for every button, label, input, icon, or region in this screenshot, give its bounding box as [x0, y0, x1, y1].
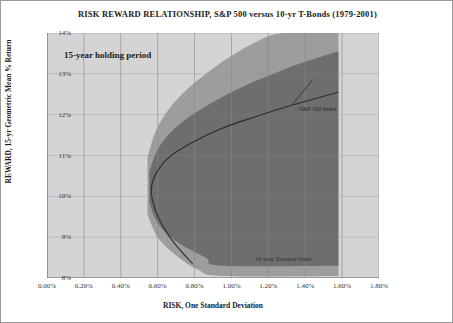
plot-area: 15-year holding period S&P 500 Index 10-…	[47, 33, 379, 278]
series-label-sp500: S&P 500 Index	[299, 105, 337, 112]
y-tick-11: 11%	[31, 152, 71, 160]
chart-title: RISK REWARD RELATIONSHIP, S&P 500 versus…	[1, 9, 453, 19]
x-axis-title: RISK, One Standard Deviation	[47, 301, 379, 310]
y-tick-13: 13%	[31, 70, 71, 78]
chart-svg	[47, 33, 379, 278]
series-label-treasury-bond: 10-year Treasury bond	[255, 255, 311, 262]
y-tick-8: 8%	[31, 274, 71, 282]
chart-frame: RISK REWARD RELATIONSHIP, S&P 500 versus…	[0, 0, 453, 323]
y-tick-10: 10%	[31, 192, 71, 200]
y-tick-9: 9%	[31, 233, 71, 241]
holding-period-callout: 15-year holding period	[64, 50, 151, 60]
y-tick-12: 12%	[31, 111, 71, 119]
y-axis-title: REWARD, 15-yr Geometric Mean % Return	[4, 0, 13, 237]
x-tick-180: 1.80%	[357, 282, 401, 290]
y-tick-14: 14%	[31, 29, 71, 37]
